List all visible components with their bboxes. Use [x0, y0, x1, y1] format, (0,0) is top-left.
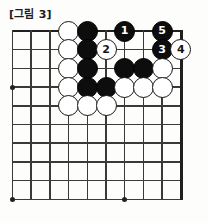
go-diagram-screenshot: [그림 3] 15234 — [0, 0, 208, 223]
stone-white-move-4[interactable]: 4 — [170, 39, 191, 60]
stone-move-number: 1 — [121, 25, 129, 36]
stone-black[interactable] — [133, 58, 154, 79]
stone-white[interactable] — [96, 95, 117, 116]
grid-line-horizontal — [12, 199, 182, 201]
stone-white[interactable] — [58, 58, 79, 79]
stone-move-number: 3 — [158, 44, 166, 55]
grid-line-vertical — [30, 30, 32, 200]
grid-line-vertical — [143, 30, 145, 200]
stone-move-number: 5 — [158, 25, 166, 36]
stone-white[interactable] — [152, 77, 173, 98]
grid-line-vertical — [124, 30, 126, 200]
grid-line-horizontal — [12, 124, 182, 126]
grid-line-horizontal — [12, 161, 182, 163]
stone-white[interactable] — [77, 95, 98, 116]
stone-black[interactable] — [77, 58, 98, 79]
grid-line-horizontal — [12, 142, 182, 144]
stone-white[interactable] — [58, 95, 79, 116]
stone-white[interactable] — [133, 77, 154, 98]
stone-move-number: 4 — [177, 44, 185, 55]
grid-line-horizontal — [12, 180, 182, 182]
stone-white-move-2[interactable]: 2 — [96, 39, 117, 60]
star-point — [122, 197, 127, 202]
grid-line-vertical — [49, 30, 51, 200]
stone-move-number: 2 — [102, 44, 110, 55]
star-point — [10, 197, 15, 202]
stone-white[interactable] — [152, 58, 173, 79]
go-board[interactable]: 15234 — [0, 0, 208, 223]
stone-black-move-1[interactable]: 1 — [114, 21, 135, 42]
grid-line-vertical — [12, 30, 14, 200]
star-point — [10, 85, 15, 90]
